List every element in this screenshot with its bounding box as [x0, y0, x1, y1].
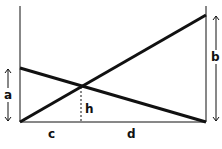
- label-c: c: [48, 127, 55, 141]
- label-d: d: [127, 127, 136, 141]
- label-h: h: [85, 102, 94, 116]
- label-a: a: [4, 88, 12, 102]
- label-b: b: [211, 50, 220, 64]
- arrow-b-icon: [213, 16, 219, 121]
- diagram-canvas: a b c d h: [0, 0, 222, 149]
- line-to-b: [20, 15, 206, 122]
- line-from-a: [20, 68, 206, 122]
